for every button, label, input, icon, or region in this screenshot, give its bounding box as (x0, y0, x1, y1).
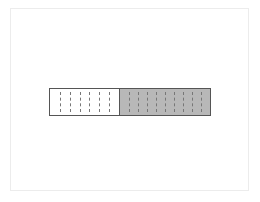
divider-line (165, 92, 166, 112)
unshaded-segment (50, 89, 120, 115)
divider-line (129, 92, 130, 112)
divider-line (183, 92, 184, 112)
divider-line (138, 92, 139, 112)
divider-line (109, 92, 110, 112)
fraction-bar (49, 88, 211, 116)
divider-line (192, 92, 193, 112)
divider-line (147, 92, 148, 112)
divider-line (156, 92, 157, 112)
divider-line (99, 92, 100, 112)
divider-line (174, 92, 175, 112)
shaded-segment (120, 89, 210, 115)
divider-line (70, 92, 71, 112)
divider-line (60, 92, 61, 112)
divider-line (89, 92, 90, 112)
divider-line (201, 92, 202, 112)
divider-line (80, 92, 81, 112)
